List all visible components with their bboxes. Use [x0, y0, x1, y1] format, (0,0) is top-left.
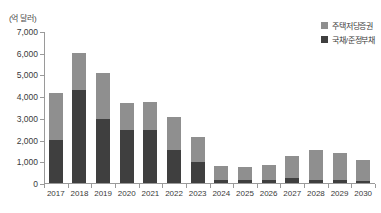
bar-segment-mbs — [49, 93, 63, 140]
x-axis-tick — [68, 184, 69, 188]
legend-swatch-mbs — [321, 22, 328, 29]
bar-group — [191, 137, 205, 183]
bar-segment-treasury — [333, 180, 347, 183]
bar-segment-treasury — [143, 130, 157, 183]
y-axis-tick — [40, 75, 44, 76]
x-axis-tick — [44, 184, 45, 188]
bar-group — [238, 167, 252, 183]
x-axis-tick — [304, 184, 305, 188]
bar-segment-mbs — [120, 103, 134, 130]
bar-segment-mbs — [285, 156, 299, 178]
bar-segment-treasury — [214, 180, 228, 183]
bar-segment-treasury — [309, 180, 323, 183]
bar-group — [262, 165, 276, 183]
x-axis-tick — [375, 184, 376, 188]
x-axis-tick-label: 2020 — [118, 189, 136, 198]
y-axis-tick — [40, 141, 44, 142]
x-axis-tick-label: 2019 — [94, 189, 112, 198]
y-axis-unit-label: (억 달러) — [9, 12, 36, 23]
legend-item-mbs: 주택저당증권 — [321, 20, 373, 31]
x-axis-tick-label: 2022 — [165, 189, 183, 198]
x-axis-tick-label: 2030 — [354, 189, 372, 198]
x-axis-tick — [280, 184, 281, 188]
y-axis-tick — [40, 54, 44, 55]
bar-segment-mbs — [262, 165, 276, 180]
bar-segment-treasury — [72, 90, 86, 183]
bar-segment-mbs — [191, 137, 205, 162]
bar-group — [214, 166, 228, 183]
x-axis-tick — [162, 184, 163, 188]
x-axis-tick — [257, 184, 258, 188]
y-axis-tick-label: 2,000 — [17, 136, 38, 146]
bar-segment-mbs — [214, 166, 228, 180]
stacked-bar-chart: (억 달러) 주택저당증권 국채/준정부채 01,0002,0003,0004,… — [0, 0, 381, 213]
bar-segment-mbs — [72, 53, 86, 90]
x-axis-tick-label: 2021 — [141, 189, 159, 198]
y-axis-tick-label: 0 — [33, 179, 38, 189]
bar-segment-treasury — [238, 180, 252, 183]
bar-segment-mbs — [96, 73, 110, 119]
y-axis-tick-label: 4,000 — [17, 92, 38, 102]
x-axis-tick — [139, 184, 140, 188]
bar-segment-mbs — [333, 153, 347, 180]
y-axis-tick-label: 5,000 — [17, 70, 38, 80]
bar-group — [49, 93, 63, 183]
x-axis-tick — [351, 184, 352, 188]
bar-group — [96, 73, 110, 183]
x-axis-tick-label: 2025 — [236, 189, 254, 198]
x-axis-tick — [210, 184, 211, 188]
bar-segment-treasury — [167, 150, 181, 183]
bar-group — [285, 156, 299, 183]
x-axis-tick-label: 2023 — [189, 189, 207, 198]
x-axis-tick-label: 2017 — [47, 189, 65, 198]
bar-group — [333, 153, 347, 183]
x-axis-tick-label: 2026 — [260, 189, 278, 198]
bar-segment-treasury — [191, 162, 205, 183]
x-axis-tick — [233, 184, 234, 188]
bar-segment-mbs — [143, 102, 157, 130]
bar-segment-treasury — [262, 180, 276, 183]
x-axis-tick — [328, 184, 329, 188]
y-axis-tick-label: 6,000 — [17, 49, 38, 59]
y-axis-line — [44, 32, 45, 184]
bar-group — [309, 150, 323, 183]
bar-segment-treasury — [49, 140, 63, 183]
y-axis-tick-label: 3,000 — [17, 114, 38, 124]
y-axis-tick-label: 7,000 — [17, 27, 38, 37]
bar-segment-treasury — [120, 130, 134, 183]
x-axis-tick — [91, 184, 92, 188]
bar-segment-mbs — [356, 160, 370, 181]
legend-label-mbs: 주택저당증권 — [332, 20, 373, 31]
x-axis-tick-label: 2028 — [307, 189, 325, 198]
bar-segment-mbs — [238, 167, 252, 180]
x-axis-tick — [115, 184, 116, 188]
bar-segment-treasury — [356, 181, 370, 183]
x-axis-tick-label: 2024 — [212, 189, 230, 198]
bar-group — [72, 53, 86, 183]
bar-group — [143, 102, 157, 183]
x-axis-tick — [186, 184, 187, 188]
bar-segment-treasury — [285, 178, 299, 183]
bar-segment-mbs — [309, 150, 323, 179]
x-axis-tick-label: 2018 — [71, 189, 89, 198]
plot-area: 01,0002,0003,0004,0005,0006,0007,000 201… — [44, 32, 375, 184]
y-axis-tick — [40, 32, 44, 33]
y-axis-tick — [40, 97, 44, 98]
bar-segment-mbs — [167, 117, 181, 151]
y-axis-tick-label: 1,000 — [17, 157, 38, 167]
y-axis-tick — [40, 119, 44, 120]
y-axis-tick — [40, 162, 44, 163]
bar-group — [356, 160, 370, 183]
bar-group — [120, 103, 134, 183]
x-axis-tick-label: 2027 — [283, 189, 301, 198]
x-axis-tick-label: 2029 — [331, 189, 349, 198]
bar-group — [167, 117, 181, 183]
bar-segment-treasury — [96, 119, 110, 183]
